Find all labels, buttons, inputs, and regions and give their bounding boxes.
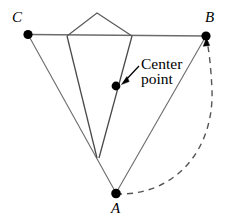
cone-right-leg bbox=[99, 36, 132, 158]
vertex-dot-C bbox=[23, 30, 32, 39]
vertex-dot-A bbox=[111, 189, 121, 199]
vertex-dot-B bbox=[201, 31, 210, 40]
figure-canvas bbox=[0, 0, 230, 221]
center-point-annotation: Center point bbox=[141, 56, 182, 86]
vertex-label-C: C bbox=[12, 10, 22, 25]
cone-left-leg bbox=[67, 36, 97, 158]
center-point-annotation-line2: point bbox=[141, 71, 182, 86]
segment-C-B bbox=[28, 35, 206, 37]
center-point-annotation-line1: Center bbox=[141, 56, 182, 71]
cone-apex-outline bbox=[67, 13, 132, 36]
geometry-figure: C B A Center point bbox=[0, 0, 230, 221]
vertex-label-A: A bbox=[111, 201, 120, 216]
vertex-label-B: B bbox=[205, 10, 214, 25]
center-point-dot bbox=[112, 82, 121, 91]
